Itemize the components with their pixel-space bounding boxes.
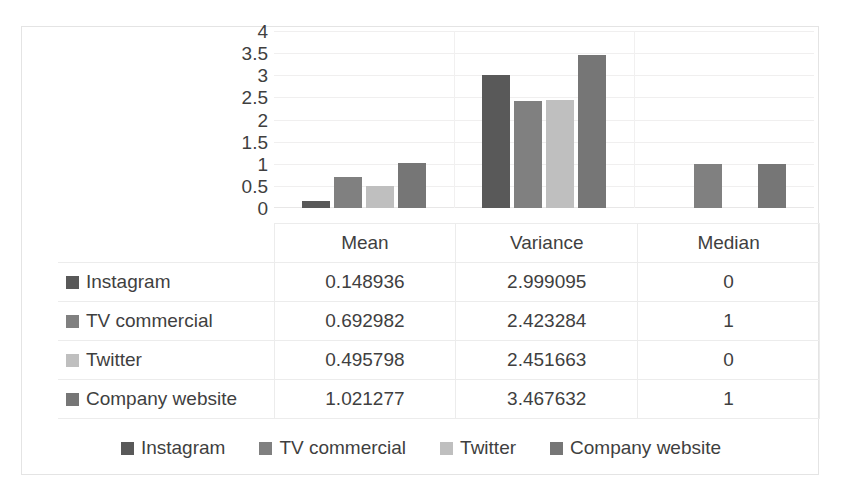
legend-item[interactable]: Twitter bbox=[440, 437, 516, 459]
series-label: Instagram bbox=[86, 271, 170, 292]
y-axis-tick-label: 4 bbox=[257, 22, 268, 41]
plot-region: 00.511.522.533.54 bbox=[22, 31, 820, 223]
table-row: Company website1.0212773.4676321 bbox=[58, 380, 820, 419]
data-table: MeanVarianceMedian Instagram0.1489362.99… bbox=[58, 223, 820, 419]
table-cell: 1 bbox=[638, 380, 820, 419]
y-axis-tick-label: 2.5 bbox=[242, 88, 268, 107]
table-row-header: Twitter bbox=[58, 341, 274, 380]
legend-color-swatch-icon bbox=[259, 442, 272, 455]
series-color-swatch-icon bbox=[66, 354, 79, 367]
bar[interactable] bbox=[334, 177, 362, 208]
bar[interactable] bbox=[398, 163, 426, 208]
legend-item[interactable]: Instagram bbox=[121, 437, 225, 459]
table-cell: 1.021277 bbox=[274, 380, 456, 419]
y-axis-tick-label: 1.5 bbox=[242, 132, 268, 151]
y-axis-tick-label: 3 bbox=[257, 66, 268, 85]
y-axis: 00.511.522.533.54 bbox=[206, 31, 268, 223]
chart-container[interactable]: 00.511.522.533.54 MeanVarianceMedian Ins… bbox=[21, 26, 819, 475]
table-row: Twitter0.4957982.4516630 bbox=[58, 341, 820, 380]
legend-label: Twitter bbox=[460, 437, 516, 459]
legend-color-swatch-icon bbox=[121, 442, 134, 455]
table-column-header: Variance bbox=[456, 224, 638, 263]
plot-canvas bbox=[274, 31, 814, 208]
table-header-row: MeanVarianceMedian bbox=[58, 224, 820, 263]
y-axis-tick-label: 2 bbox=[257, 110, 268, 129]
bar-group bbox=[274, 31, 454, 208]
table-cell: 0 bbox=[638, 263, 820, 302]
table-row-header: TV commercial bbox=[58, 302, 274, 341]
legend-label: TV commercial bbox=[279, 437, 406, 459]
y-axis-tick-label: 0 bbox=[257, 199, 268, 218]
legend-color-swatch-icon bbox=[440, 442, 453, 455]
table-body: Instagram0.1489362.9990950TV commercial0… bbox=[58, 263, 820, 419]
table-row-header: Company website bbox=[58, 380, 274, 419]
table-cell: 1 bbox=[638, 302, 820, 341]
table-cell: 2.999095 bbox=[456, 263, 638, 302]
bar[interactable] bbox=[482, 75, 510, 208]
chart-legend: InstagramTV commercialTwitterCompany web… bbox=[22, 426, 820, 470]
bar[interactable] bbox=[514, 101, 542, 208]
legend-item[interactable]: TV commercial bbox=[259, 437, 406, 459]
bar[interactable] bbox=[366, 186, 394, 208]
series-color-swatch-icon bbox=[66, 276, 79, 289]
bar[interactable] bbox=[758, 164, 786, 208]
legend-label: Instagram bbox=[141, 437, 225, 459]
legend-item[interactable]: Company website bbox=[550, 437, 721, 459]
bar[interactable] bbox=[302, 201, 330, 208]
table-cell: 0.495798 bbox=[274, 341, 456, 380]
y-axis-tick-label: 3.5 bbox=[242, 44, 268, 63]
table-column-header: Mean bbox=[274, 224, 456, 263]
table-row-header: Instagram bbox=[58, 263, 274, 302]
y-axis-tick-label: 0.5 bbox=[242, 176, 268, 195]
bar[interactable] bbox=[694, 164, 722, 208]
series-label: Twitter bbox=[86, 349, 142, 370]
legend-label: Company website bbox=[570, 437, 721, 459]
table-cell: 2.451663 bbox=[456, 341, 638, 380]
y-axis-tick-label: 1 bbox=[257, 154, 268, 173]
bar-group bbox=[634, 31, 814, 208]
table-corner-cell bbox=[58, 224, 274, 263]
series-color-swatch-icon bbox=[66, 393, 79, 406]
table-cell: 3.467632 bbox=[456, 380, 638, 419]
bar-group bbox=[454, 31, 634, 208]
table-row: Instagram0.1489362.9990950 bbox=[58, 263, 820, 302]
table-column-header: Median bbox=[638, 224, 820, 263]
table-cell: 0.692982 bbox=[274, 302, 456, 341]
bar[interactable] bbox=[578, 55, 606, 208]
series-label: Company website bbox=[86, 388, 237, 409]
table-row: TV commercial0.6929822.4232841 bbox=[58, 302, 820, 341]
bar[interactable] bbox=[546, 100, 574, 208]
legend-color-swatch-icon bbox=[550, 442, 563, 455]
series-label: TV commercial bbox=[86, 310, 213, 331]
table-cell: 2.423284 bbox=[456, 302, 638, 341]
table-cell: 0.148936 bbox=[274, 263, 456, 302]
table-cell: 0 bbox=[638, 341, 820, 380]
series-color-swatch-icon bbox=[66, 315, 79, 328]
